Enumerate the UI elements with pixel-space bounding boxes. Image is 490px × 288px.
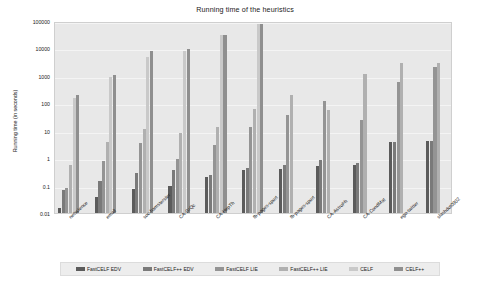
bar [393, 142, 396, 213]
bar-group [58, 23, 80, 213]
plot-area [54, 22, 452, 214]
bar [327, 110, 330, 213]
bar [209, 175, 212, 213]
y-axis-tick-label: 100 [41, 101, 50, 107]
bar [113, 75, 116, 213]
bar [397, 82, 400, 213]
bar [168, 186, 171, 213]
bar [246, 168, 249, 213]
bar-group [205, 23, 227, 213]
bar [360, 120, 363, 213]
legend-swatch [349, 267, 358, 271]
bar-group [279, 23, 301, 213]
legend-item[interactable]: CELF [349, 266, 373, 272]
bar [316, 166, 319, 213]
legend-swatch [215, 267, 224, 271]
bar [220, 35, 223, 213]
bar [143, 129, 146, 213]
y-axis-tick-label: 10000 [36, 46, 50, 52]
bar [109, 77, 112, 213]
bar [353, 165, 356, 213]
bar [135, 173, 138, 214]
bar [242, 170, 245, 213]
legend-item[interactable]: FastCELF++ LIE [279, 266, 327, 272]
bar [179, 133, 182, 213]
legend-swatch [76, 267, 85, 271]
bar-groups [55, 23, 451, 213]
bar [76, 95, 79, 213]
bar [433, 67, 436, 213]
bar [279, 169, 282, 213]
bar [363, 74, 366, 213]
bar [65, 188, 68, 213]
bar [319, 160, 322, 213]
bar [172, 170, 175, 213]
chart-title: Running time of the heuristics [0, 5, 490, 14]
bar-group [95, 23, 117, 213]
bar [253, 109, 256, 213]
bar [400, 63, 403, 213]
legend-item[interactable]: CELF++ [394, 266, 424, 272]
bar [286, 115, 289, 213]
bar [139, 143, 142, 213]
legend-label: FastCELF LIE [226, 266, 257, 272]
bar [437, 63, 440, 213]
y-axis-tick-label: 0.01 [40, 211, 50, 217]
bar [257, 24, 260, 213]
bar [283, 165, 286, 213]
bar [176, 159, 179, 213]
bar [98, 181, 101, 213]
legend-item[interactable]: FastCELF EDV [76, 266, 121, 272]
legend-swatch [279, 267, 288, 271]
legend-item[interactable]: FastCELF++ EDV [143, 266, 194, 272]
y-axis-tick-label: 100000 [33, 19, 50, 25]
bar [106, 142, 109, 213]
y-axis-tick-label: 1000 [38, 74, 50, 80]
legend-label: FastCELF EDV [87, 266, 121, 272]
bar-group [389, 23, 411, 213]
bar [356, 163, 359, 213]
chart-figure: Running time of the heuristics Running t… [0, 0, 490, 288]
bar [132, 189, 135, 213]
bar [58, 208, 61, 213]
bar [249, 127, 252, 213]
chart-legend: FastCELF EDVFastCELF++ EDVFastCELF LIEFa… [60, 262, 440, 276]
bar [95, 197, 98, 213]
bar [290, 95, 293, 213]
bar [223, 35, 226, 213]
y-axis-tick-label: 1 [47, 156, 50, 162]
bar [389, 142, 392, 213]
bar-group [168, 23, 190, 213]
bar [146, 57, 149, 213]
legend-item[interactable]: FastCELF LIE [215, 266, 258, 272]
bar [187, 49, 190, 213]
bar-group [316, 23, 338, 213]
y-axis: 0.010.1110100100010000100000 [0, 22, 54, 214]
bar [150, 51, 153, 213]
bar [183, 51, 186, 213]
y-axis-tick-label: 10 [44, 129, 50, 135]
bar [69, 165, 72, 213]
legend-swatch [143, 267, 152, 271]
bar-group [132, 23, 154, 213]
x-axis: netscienceemailsoc-hamstersterCA-GrQcCA-… [54, 214, 452, 260]
legend-label: CELF++ [406, 266, 425, 272]
bar-group [242, 23, 264, 213]
bar [213, 145, 216, 213]
bar [323, 101, 326, 213]
legend-label: FastCELF++ LIE [290, 266, 327, 272]
legend-label: FastCELF++ EDV [154, 266, 194, 272]
bar [205, 177, 208, 213]
bar [102, 161, 105, 213]
bar-group [426, 23, 448, 213]
bar [430, 141, 433, 213]
bar [260, 24, 263, 213]
bar [62, 190, 65, 213]
bar-group [353, 23, 375, 213]
legend-swatch [394, 267, 403, 271]
y-axis-tick-label: 0.1 [43, 184, 50, 190]
legend-label: CELF [360, 266, 373, 272]
bar [216, 127, 219, 213]
bar [73, 98, 76, 213]
bar [426, 141, 429, 213]
